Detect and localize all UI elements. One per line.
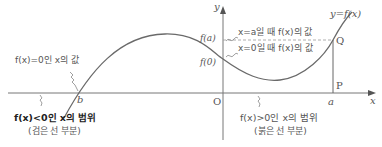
negative-pointer bbox=[40, 95, 42, 106]
negative-region-note: (검은 선 부분) bbox=[28, 127, 81, 136]
value-at-0-annotation: x=0일 때 f(x)의 값 bbox=[238, 44, 313, 53]
fa-pointer bbox=[226, 37, 238, 41]
y-axis-arrow-icon bbox=[220, 6, 226, 14]
function-graph bbox=[0, 0, 382, 147]
f0-pointer bbox=[226, 53, 238, 57]
origin-label: O bbox=[213, 97, 221, 107]
positive-region-note: (붉은 선 부분) bbox=[254, 127, 307, 136]
x-axis-label: x bbox=[370, 96, 376, 106]
root-annotation: f(x)=0인 x의 값 bbox=[15, 56, 79, 65]
positive-pointer bbox=[258, 96, 260, 107]
root-pointer bbox=[70, 72, 78, 91]
fa-tick-label: f(a) bbox=[200, 34, 216, 43]
point-q-label: Q bbox=[336, 36, 344, 46]
point-a-label: a bbox=[328, 97, 334, 107]
point-b-label: b bbox=[77, 95, 83, 105]
negative-region-annotation: f(x)<0인 x의 범위 bbox=[14, 113, 96, 123]
curve-label: y=f(x) bbox=[330, 9, 361, 19]
positive-region-annotation: f(x)>0인 x의 범위 bbox=[240, 113, 318, 123]
f0-tick-label: f(0) bbox=[200, 58, 216, 67]
value-at-a-annotation: x=a일 때 f(x)의 값 bbox=[238, 28, 312, 37]
y-axis-label: y bbox=[214, 2, 220, 12]
point-p-label: P bbox=[336, 81, 343, 91]
